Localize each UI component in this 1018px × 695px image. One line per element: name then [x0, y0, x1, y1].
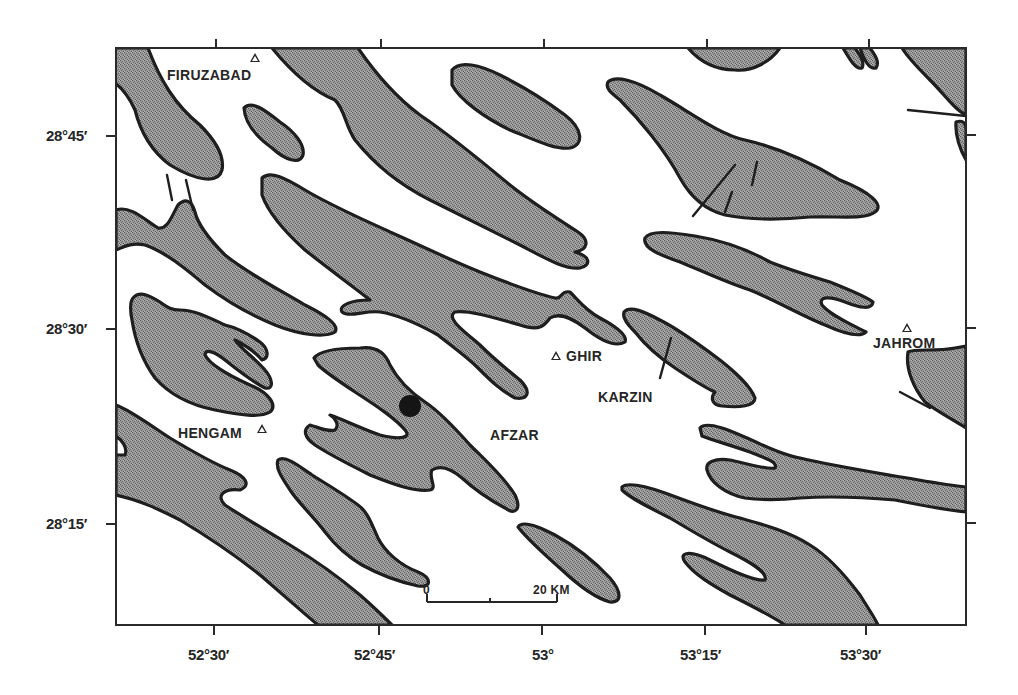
- place-label-karzin: KARZIN: [598, 390, 653, 404]
- epicenter-marker: [399, 395, 421, 417]
- place-label-afzar: AFZAR: [490, 428, 539, 442]
- firuzabad-triangle-icon: [250, 53, 260, 62]
- longitude-label-52-45: 52°45′: [354, 647, 395, 662]
- fold-band: [645, 233, 873, 335]
- fold-bands: [110, 48, 966, 625]
- longitude-label-52-30: 52°30′: [188, 647, 229, 662]
- longitude-label-53-30: 53°30′: [840, 647, 881, 662]
- jahrom-triangle-icon: [902, 323, 912, 332]
- place-label-ghir: GHIR: [566, 349, 602, 363]
- scale-bar-end-label: 20 KM: [533, 584, 570, 596]
- longitude-label-53: 53°: [532, 647, 554, 662]
- latitude-label-28-45: 28°45′: [46, 128, 87, 143]
- map-canvas: [0, 0, 1018, 695]
- ghir-triangle-icon: [551, 351, 561, 360]
- longitude-label-53-15: 53°15′: [680, 647, 721, 662]
- fold-band: [452, 65, 580, 149]
- fold-band: [902, 48, 966, 115]
- place-label-jahrom: JAHROM: [873, 336, 935, 350]
- latitude-label-28-30: 28°30′: [46, 321, 87, 336]
- place-label-hengam: HENGAM: [178, 426, 242, 440]
- latitude-label-28-15: 28°15′: [46, 516, 87, 531]
- fold-band: [607, 79, 878, 219]
- fold-band: [688, 48, 780, 70]
- place-label-firuzabad: FIRUZABAD: [167, 68, 251, 82]
- fold-band: [622, 485, 878, 625]
- fold-band: [956, 121, 966, 160]
- fold-band: [907, 346, 966, 428]
- hengam-triangle-icon: [257, 424, 267, 433]
- fold-band: [244, 105, 303, 160]
- fold-band: [700, 425, 966, 512]
- scale-bar-start-label: 0: [423, 584, 430, 596]
